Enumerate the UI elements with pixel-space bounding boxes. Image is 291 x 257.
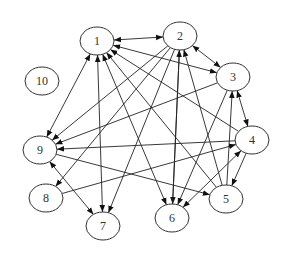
edge-2-3 xyxy=(192,46,220,68)
edge-line xyxy=(113,45,217,72)
edge-line xyxy=(192,46,220,68)
node-label: 7 xyxy=(100,219,106,233)
edge-line xyxy=(107,53,217,188)
directed-graph: 12345678910 xyxy=(0,0,291,257)
edge-line xyxy=(103,54,167,205)
edge-line xyxy=(114,37,163,40)
node-1: 1 xyxy=(80,27,114,55)
node-3: 3 xyxy=(216,63,250,91)
nodes-layer: 12345678910 xyxy=(23,22,269,240)
edge-2-7 xyxy=(108,49,174,212)
edge-4-9 xyxy=(57,141,235,149)
edge-line xyxy=(56,48,171,187)
edge-line xyxy=(98,55,103,212)
node-7: 7 xyxy=(86,212,120,240)
node-label: 8 xyxy=(43,191,49,205)
edge-line xyxy=(237,91,248,127)
edge-5-1 xyxy=(107,53,217,188)
edge-line xyxy=(57,141,235,149)
edge-line xyxy=(108,49,174,212)
edge-1-9 xyxy=(47,54,91,137)
node-label: 10 xyxy=(36,74,48,88)
edge-1-7 xyxy=(98,55,103,212)
edge-6-1 xyxy=(103,54,167,205)
edge-2-8 xyxy=(56,48,171,187)
node-9: 9 xyxy=(23,136,57,164)
edge-6-2 xyxy=(173,50,180,204)
node-10: 10 xyxy=(25,67,59,95)
edge-line xyxy=(173,50,180,204)
node-6: 6 xyxy=(155,204,189,232)
node-5: 5 xyxy=(209,185,243,213)
node-label: 9 xyxy=(37,143,43,157)
node-label: 4 xyxy=(249,133,255,147)
edge-5-3 xyxy=(227,91,232,185)
edge-line xyxy=(47,54,91,137)
node-label: 3 xyxy=(230,70,236,84)
node-4: 4 xyxy=(235,126,269,154)
edge-line xyxy=(62,145,236,194)
node-2: 2 xyxy=(163,22,197,50)
edge-line xyxy=(227,91,232,185)
node-label: 2 xyxy=(177,29,183,43)
node-8: 8 xyxy=(29,184,63,212)
node-label: 1 xyxy=(94,34,100,48)
edge-8-4 xyxy=(62,145,236,194)
edge-3-4 xyxy=(237,91,248,127)
node-label: 5 xyxy=(223,192,229,206)
edge-1-2 xyxy=(114,37,163,40)
node-label: 6 xyxy=(169,211,175,225)
edge-1-3 xyxy=(113,45,217,72)
